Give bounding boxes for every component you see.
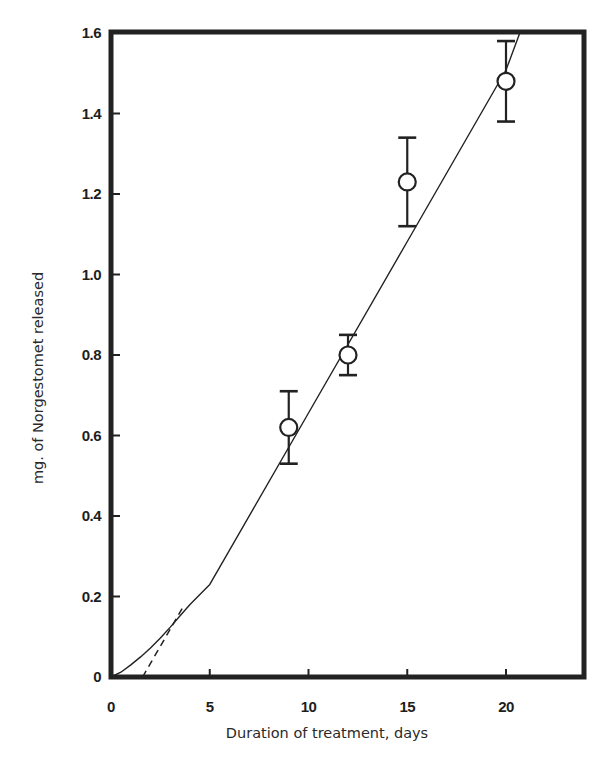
y-tick-label: 0.2 — [82, 588, 102, 605]
data-point — [339, 335, 357, 375]
y-tick-label: 0.6 — [82, 427, 102, 444]
y-axis-ticks: 00.20.40.60.81.01.21.41.6 — [82, 24, 120, 685]
y-tick-label: 1.2 — [82, 185, 102, 202]
x-tick-label: 5 — [206, 698, 214, 715]
extrapolation-dashed-line — [143, 609, 183, 677]
y-tick-label: 0 — [93, 668, 101, 685]
x-tick-label: 0 — [107, 698, 115, 715]
y-tick-label: 1.0 — [82, 266, 102, 283]
x-tick-label: 15 — [399, 698, 415, 715]
open-circle-marker — [498, 73, 515, 90]
x-tick-label: 10 — [301, 698, 317, 715]
open-circle-marker — [280, 419, 297, 436]
x-tick-label: 20 — [498, 698, 514, 715]
open-circle-marker — [340, 347, 357, 364]
chart: 05101520 00.20.40.60.81.01.21.41.6 Durat… — [0, 0, 612, 759]
x-axis-label: Duration of treatment, days — [226, 725, 428, 741]
chart-canvas: 05101520 00.20.40.60.81.01.21.41.6 Durat… — [0, 0, 612, 759]
fitted-curve — [111, 33, 520, 677]
dashed-extrapolation-path — [143, 609, 183, 677]
y-tick-label: 0.4 — [82, 507, 103, 524]
data-point — [280, 391, 298, 463]
data-point — [398, 138, 416, 227]
fitted-curve-path — [111, 33, 520, 677]
y-tick-label: 1.6 — [82, 24, 102, 41]
y-tick-label: 0.8 — [82, 346, 102, 363]
y-tick-label: 1.4 — [82, 105, 103, 122]
y-axis-label: mg. of Norgestomet released — [30, 272, 46, 484]
open-circle-marker — [399, 173, 416, 190]
